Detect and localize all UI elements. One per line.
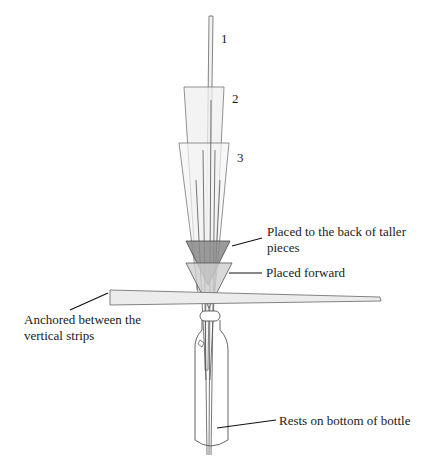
callout-anchored-line2: vertical strips <box>24 328 94 343</box>
piece-1-number: 1 <box>221 31 228 46</box>
piece-2-number: 2 <box>232 91 239 106</box>
callout-rests: Rests on bottom of bottle <box>279 413 410 428</box>
callout-back-line1: Placed to the back of taller <box>267 224 406 239</box>
callout-anchored-line1: Anchored between the <box>24 312 141 327</box>
callout-forward: Placed forward <box>266 265 345 280</box>
callout-back-line2: pieces <box>267 240 299 255</box>
callout-lines <box>70 238 276 428</box>
piece-3-number: 3 <box>237 150 244 165</box>
horizontal-strip <box>110 290 381 305</box>
